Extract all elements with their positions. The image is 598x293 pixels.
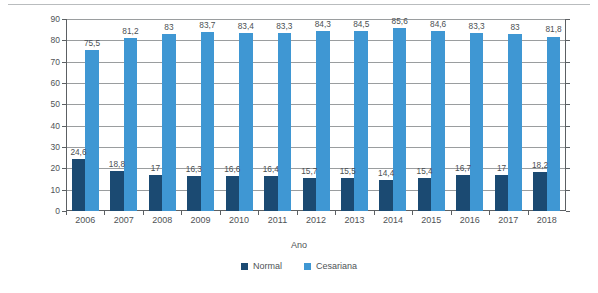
bar-value-label: 81,2 xyxy=(117,27,143,35)
bar-value-label: 18,2 xyxy=(527,161,553,169)
bar-cesariana xyxy=(162,34,176,211)
bar-cesariana xyxy=(508,34,522,211)
y-axis-tick-label: 30 xyxy=(36,143,60,152)
legend-item-cesariana[interactable]: Cesariana xyxy=(304,262,357,271)
legend-swatch-icon xyxy=(304,263,311,270)
bar-normal xyxy=(341,178,355,211)
top-divider xyxy=(8,4,590,5)
bar-value-label: 16,7 xyxy=(450,164,476,172)
bar-value-label: 15,5 xyxy=(335,167,361,175)
bar-cesariana xyxy=(431,31,445,211)
bar-value-label: 83,3 xyxy=(464,22,490,30)
bar-normal xyxy=(110,171,124,211)
bar-cesariana xyxy=(354,31,368,211)
y-axis-tick-label: 40 xyxy=(36,122,60,131)
bar-value-label: 84,5 xyxy=(348,20,374,28)
x-axis-tick-label: 2013 xyxy=(335,216,373,225)
bar-normal xyxy=(379,180,393,211)
bar-normal xyxy=(456,175,470,211)
x-axis-tick-label: 2012 xyxy=(297,216,335,225)
x-axis-tick-label: 2014 xyxy=(374,216,412,225)
y-axis-line-right xyxy=(565,19,566,211)
x-axis-tick-label: 2007 xyxy=(104,216,142,225)
x-axis-tick-mark xyxy=(181,211,182,215)
x-axis-tick-mark xyxy=(489,211,490,215)
x-axis-tick-label: 2015 xyxy=(412,216,450,225)
bar-cesariana xyxy=(316,31,330,211)
bar-normal xyxy=(226,176,240,211)
y-axis-tick-mark xyxy=(566,147,570,148)
bar-value-label: 83 xyxy=(156,23,182,31)
y-axis-tick-mark xyxy=(566,211,570,212)
x-axis-tick-mark xyxy=(220,211,221,215)
legend-swatch-icon xyxy=(241,263,248,270)
bar-value-label: 84,3 xyxy=(310,20,336,28)
y-axis-tick-mark xyxy=(566,19,570,20)
bar-cesariana xyxy=(85,50,99,211)
bar-value-label: 17 xyxy=(142,164,168,172)
bar-value-label: 17 xyxy=(489,164,515,172)
x-axis-tick-mark xyxy=(143,211,144,215)
bar-value-label: 16,3 xyxy=(181,165,207,173)
x-axis-tick-mark xyxy=(297,211,298,215)
y-axis-tick-mark xyxy=(566,168,570,169)
y-axis-tick-label: 50 xyxy=(36,100,60,109)
bar-value-label: 84,6 xyxy=(425,20,451,28)
legend-label: Cesariana xyxy=(316,262,357,271)
bar-value-label: 83,4 xyxy=(233,22,259,30)
y-axis-tick-label: 70 xyxy=(36,58,60,67)
bar-normal xyxy=(149,175,163,211)
bar-cesariana xyxy=(470,33,484,211)
bar-normal xyxy=(264,176,278,211)
x-axis-tick-label: 2018 xyxy=(528,216,566,225)
bar-value-label: 14,4 xyxy=(373,169,399,177)
y-axis-line-left xyxy=(66,19,67,211)
y-axis-tick-mark xyxy=(566,104,570,105)
legend-item-normal[interactable]: Normal xyxy=(241,262,282,271)
bar-value-label: 18,8 xyxy=(104,160,130,168)
bar-value-label: 16,4 xyxy=(258,165,284,173)
y-axis-tick-mark xyxy=(62,168,66,169)
bar-normal xyxy=(418,178,432,211)
y-axis-tick-mark xyxy=(62,40,66,41)
legend-label: Normal xyxy=(253,262,282,271)
y-axis-tick-mark xyxy=(62,62,66,63)
x-axis-tick-label: 2009 xyxy=(181,216,219,225)
bar-chart-figure: Taxas de partos normais e cesarianas 010… xyxy=(0,0,598,293)
bar-normal xyxy=(187,176,201,211)
x-axis-tick-label: 2017 xyxy=(489,216,527,225)
y-axis-tick-label: 10 xyxy=(36,186,60,195)
y-axis-tick-label: 80 xyxy=(36,36,60,45)
bar-normal xyxy=(303,178,317,211)
bar-normal xyxy=(495,175,509,211)
x-axis-tick-mark xyxy=(335,211,336,215)
bar-cesariana xyxy=(124,38,138,211)
bar-normal xyxy=(533,172,547,211)
x-axis-tick-label: 2006 xyxy=(66,216,104,225)
x-axis-tick-mark xyxy=(258,211,259,215)
bar-cesariana xyxy=(393,28,407,211)
bar-cesariana xyxy=(201,32,215,211)
bar-value-label: 81,8 xyxy=(541,25,567,33)
bar-cesariana xyxy=(278,33,292,211)
bar-value-label: 83,3 xyxy=(271,22,297,30)
bar-value-label: 83 xyxy=(502,23,528,31)
bar-cesariana xyxy=(239,33,253,211)
y-axis-tick-mark xyxy=(62,190,66,191)
x-axis-tick-mark xyxy=(66,211,67,215)
bar-value-label: 24,6 xyxy=(65,148,91,156)
x-axis-title: Ano xyxy=(0,240,598,250)
bar-normal xyxy=(72,159,86,211)
x-axis-tick-mark xyxy=(374,211,375,215)
y-axis-tick-mark xyxy=(62,19,66,20)
bar-value-label: 16,6 xyxy=(219,165,245,173)
x-axis-tick-mark xyxy=(451,211,452,215)
x-axis-tick-mark xyxy=(412,211,413,215)
x-axis-tick-label: 2008 xyxy=(143,216,181,225)
y-axis-tick-label: 90 xyxy=(36,15,60,24)
x-axis-tick-label: 2011 xyxy=(258,216,296,225)
bar-value-label: 15,7 xyxy=(296,167,322,175)
y-axis-tick-mark xyxy=(62,104,66,105)
y-axis-tick-mark xyxy=(566,62,570,63)
plot-frame xyxy=(66,19,566,211)
